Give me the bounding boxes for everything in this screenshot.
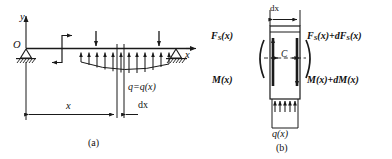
shear-left-F: F: [211, 30, 218, 41]
shear-left-arg: (x): [221, 30, 233, 41]
element-dx-label: dx: [270, 4, 279, 13]
shear-force-left-label: FS(x): [211, 31, 233, 42]
bottom-load-label: q(x): [272, 129, 288, 139]
origin-label: O: [13, 40, 21, 51]
panel-a-beam-diagram: y x O q=q(x) x dx (a): [0, 0, 200, 159]
shear-right-arg: (x)+dF: [317, 30, 346, 41]
moment-right-arc: [306, 40, 310, 78]
shear-force-right-label: FS(x)+dFS(x): [307, 31, 362, 42]
dimension-dx-label: dx: [138, 100, 148, 110]
moment-right-label: M(x)+dM(x): [307, 75, 359, 85]
panel-a-svg: [0, 0, 200, 159]
panel-b-caption: (b): [276, 143, 288, 153]
x-axis-label: x: [185, 50, 190, 61]
y-axis-label: y: [20, 12, 25, 23]
moment-left-arc: [260, 40, 264, 78]
distributed-load-curve: [81, 62, 169, 70]
bottom-load-arrows: [275, 101, 295, 112]
panel-b-element-fbd: dx FS(x) FS(x)+dFS(x) M(x) M(x)+dM(x) C …: [200, 0, 392, 159]
figure-root: y x O q=q(x) x dx (a): [0, 0, 392, 159]
panel-a-caption: (a): [88, 138, 99, 148]
distributed-load-label: q=q(x): [128, 82, 156, 92]
pin-support-left: [16, 49, 36, 63]
dimension-x-label: x: [66, 101, 71, 112]
centroid-label: C: [281, 50, 287, 60]
element-body: [270, 26, 300, 99]
shear-right-arg2: (x): [350, 30, 362, 41]
shear-right-F: F: [307, 30, 314, 41]
moment-left-label: M(x): [212, 75, 233, 85]
